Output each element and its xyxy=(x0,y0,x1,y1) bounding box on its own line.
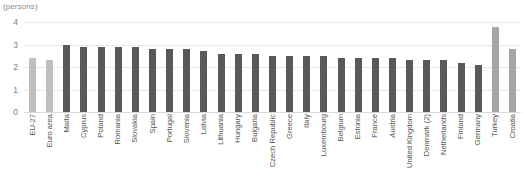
plot-area xyxy=(24,22,521,112)
x-label-slot: Estonia xyxy=(350,113,367,193)
x-label-slot: Germany xyxy=(470,113,487,193)
x-tick-label: Netherlands xyxy=(440,114,448,155)
x-tick-label: Poland xyxy=(97,114,105,138)
bar-slot xyxy=(230,22,247,112)
bar-slot xyxy=(161,22,178,112)
bar-slot xyxy=(315,22,332,112)
bar-slot xyxy=(264,22,281,112)
bar[interactable] xyxy=(355,58,362,112)
x-tick-label: Romania xyxy=(114,114,122,144)
x-tick-label: Hungary xyxy=(234,114,242,143)
bar-slot xyxy=(178,22,195,112)
bar[interactable] xyxy=(389,58,396,112)
bar-series xyxy=(24,22,521,112)
bar-slot xyxy=(75,22,92,112)
y-tick-label: 3 xyxy=(13,40,18,49)
bar[interactable] xyxy=(423,60,430,112)
bar-slot xyxy=(435,22,452,112)
bar[interactable] xyxy=(200,51,207,112)
bar-slot xyxy=(470,22,487,112)
x-label-slot: Croatia xyxy=(504,113,521,193)
x-label-slot: Finland xyxy=(453,113,470,193)
bar-slot xyxy=(401,22,418,112)
bar[interactable] xyxy=(235,54,242,113)
bar-slot xyxy=(418,22,435,112)
bar-slot xyxy=(24,22,41,112)
bar[interactable] xyxy=(320,56,327,112)
bar[interactable] xyxy=(338,58,345,112)
bar-slot xyxy=(127,22,144,112)
bar[interactable] xyxy=(183,49,190,112)
y-axis-unit-label: (persons) xyxy=(3,2,38,11)
bar[interactable] xyxy=(303,56,310,112)
bar[interactable] xyxy=(286,56,293,112)
bar[interactable] xyxy=(80,47,87,112)
x-label-slot: Greece xyxy=(281,113,298,193)
x-tick-label: Croatia xyxy=(509,114,517,138)
y-tick-label: 0 xyxy=(13,108,18,117)
bar[interactable] xyxy=(166,49,173,112)
bar-slot xyxy=(213,22,230,112)
bar[interactable] xyxy=(475,65,482,112)
bar-slot xyxy=(453,22,470,112)
bar[interactable] xyxy=(29,58,36,112)
bar-slot xyxy=(350,22,367,112)
bar[interactable] xyxy=(115,47,122,112)
bar[interactable] xyxy=(458,63,465,113)
x-label-slot: Latvia xyxy=(195,113,212,193)
x-tick-label: Italy xyxy=(303,114,311,128)
bar-slot xyxy=(247,22,264,112)
x-label-slot: Portugal xyxy=(161,113,178,193)
bar[interactable] xyxy=(406,60,413,112)
y-tick-label: 1 xyxy=(13,85,18,94)
bar[interactable] xyxy=(492,27,499,113)
x-tick-label: Lithuania xyxy=(217,114,225,145)
y-tick-label: 4 xyxy=(13,18,18,27)
x-axis-tick-labels: EU-27Euro areaMaltaCyprusPolandRomaniaSl… xyxy=(24,113,521,193)
bar-slot xyxy=(93,22,110,112)
x-tick-label: Denmark (2) xyxy=(423,114,431,156)
x-label-slot: EU-27 xyxy=(24,113,41,193)
x-label-slot: Slovenia xyxy=(178,113,195,193)
x-tick-label: France xyxy=(372,114,380,138)
x-label-slot: Netherlands xyxy=(435,113,452,193)
x-label-slot: Euro area xyxy=(41,113,58,193)
x-tick-label: Malta xyxy=(63,114,71,133)
x-label-slot: Slovakia xyxy=(127,113,144,193)
bar[interactable] xyxy=(269,56,276,112)
x-tick-label: Estonia xyxy=(354,114,362,139)
bar[interactable] xyxy=(252,54,259,113)
x-tick-label: Slovakia xyxy=(132,114,140,143)
x-tick-label: United Kingdom xyxy=(406,114,414,168)
x-label-slot: Belgium xyxy=(333,113,350,193)
bar-slot xyxy=(281,22,298,112)
bar[interactable] xyxy=(149,49,156,112)
bar-slot xyxy=(41,22,58,112)
bar[interactable] xyxy=(63,45,70,113)
x-tick-label: Austria xyxy=(389,114,397,138)
x-tick-label: Spain xyxy=(149,114,157,133)
bar[interactable] xyxy=(218,54,225,113)
x-tick-label: Finland xyxy=(457,114,465,139)
x-tick-label: Germany xyxy=(474,114,482,145)
bar[interactable] xyxy=(46,60,53,112)
bar-slot xyxy=(384,22,401,112)
bar[interactable] xyxy=(132,47,139,112)
bar[interactable] xyxy=(440,60,447,112)
x-tick-label: Euro area xyxy=(46,114,54,147)
x-tick-label: Portugal xyxy=(166,114,174,142)
x-label-slot: France xyxy=(367,113,384,193)
bar-slot xyxy=(144,22,161,112)
x-tick-label: Bulgaria xyxy=(252,114,260,142)
x-tick-label: Cyprus xyxy=(80,114,88,138)
bar-slot xyxy=(487,22,504,112)
bar-slot xyxy=(195,22,212,112)
x-label-slot: Lithuania xyxy=(213,113,230,193)
bar[interactable] xyxy=(509,49,516,112)
bar[interactable] xyxy=(98,47,105,112)
x-tick-label: Latvia xyxy=(200,114,208,134)
x-label-slot: Czech Republic xyxy=(264,113,281,193)
x-label-slot: Poland xyxy=(93,113,110,193)
bar[interactable] xyxy=(372,58,379,112)
x-label-slot: Cyprus xyxy=(75,113,92,193)
